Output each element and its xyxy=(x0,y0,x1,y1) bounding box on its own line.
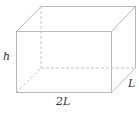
box-diagram: h 2L L xyxy=(0,0,139,116)
edge-top-left-depth xyxy=(17,7,42,32)
hidden-edge-bottom-left-depth xyxy=(17,68,42,93)
front-face xyxy=(17,32,112,93)
depth-label: L xyxy=(128,78,135,89)
width-label: 2L xyxy=(56,96,70,107)
edge-top-right-depth xyxy=(112,7,136,32)
height-label: h xyxy=(3,51,10,62)
